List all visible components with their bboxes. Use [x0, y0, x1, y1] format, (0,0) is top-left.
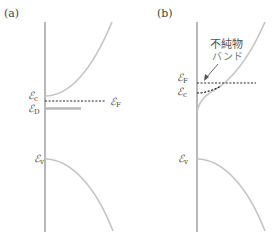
impurity-band-label-line1: 不純物: [210, 37, 243, 51]
level-label-ec-a: ℰc: [28, 90, 38, 103]
level-label-ev-b: ℰv: [178, 153, 188, 166]
panel-b: (b) 不純物 バンド ℰF ℰc ℰv: [157, 7, 265, 232]
impurity-band-arrow: [206, 64, 218, 78]
band-diagram: (a) ℰc ℰF ℰD ℰv (b) 不純物 バンド ℰF ℰc ℰv: [0, 0, 272, 243]
level-label-ec-b: ℰc: [177, 86, 187, 99]
conduction-band-curve-a: [45, 22, 112, 96]
panel-b-label: (b): [157, 7, 173, 20]
impurity-band-label-line2: バンド: [212, 51, 243, 62]
valence-band-curve-b: [197, 159, 265, 231]
valence-band-curve-a: [45, 159, 113, 231]
panel-a-label: (a): [4, 7, 19, 20]
level-label-ed-a: ℰD: [28, 103, 40, 116]
level-label-ev-a: ℰv: [34, 153, 44, 166]
level-label-ef-b: ℰF: [177, 72, 188, 85]
panel-a: (a) ℰc ℰF ℰD ℰv: [4, 7, 121, 232]
impurity-band-edge-dashed-b: [197, 86, 221, 93]
conduction-band-curve-b: [197, 22, 265, 112]
level-label-ef-a: ℰF: [110, 96, 121, 109]
